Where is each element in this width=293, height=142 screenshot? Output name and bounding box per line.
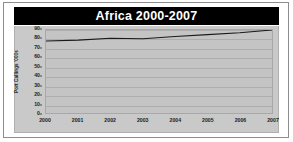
y-tick-mark <box>40 76 42 77</box>
chart-figure: Africa 2000-2007 Port Callings '000s 010… <box>0 0 293 142</box>
y-tick-mark <box>40 38 42 39</box>
plot-area <box>45 29 273 114</box>
x-tick-label: 2006 <box>235 118 247 123</box>
x-tick-label: 2002 <box>104 118 116 123</box>
y-tick-mark <box>40 85 42 86</box>
y-tick-mark <box>40 66 42 67</box>
x-tick-label: 2004 <box>170 118 182 123</box>
y-tick-mark <box>40 104 42 105</box>
y-tick-mark <box>40 114 42 115</box>
page-title: Africa 2000-2007 <box>96 10 198 23</box>
x-axis-ticks: 20002001200220032004200520062007 <box>45 118 273 128</box>
title-banner: Africa 2000-2007 <box>14 7 279 25</box>
x-tick-label: 2000 <box>39 118 51 123</box>
y-tick-mark <box>40 95 42 96</box>
series-line-port-callings <box>46 30 272 113</box>
x-tick-label: 2003 <box>137 118 149 123</box>
y-tick-mark <box>40 29 42 30</box>
y-axis-ticks: 0102030405060708090 <box>15 29 42 114</box>
chart-panel: Port Callings '000s 0102030405060708090 … <box>14 26 279 133</box>
y-tick-mark <box>40 57 42 58</box>
x-tick-label: 2001 <box>72 118 84 123</box>
y-tick-mark <box>40 47 42 48</box>
x-tick-label: 2007 <box>267 118 279 123</box>
series-line <box>46 30 272 41</box>
x-tick-label: 2005 <box>202 118 214 123</box>
